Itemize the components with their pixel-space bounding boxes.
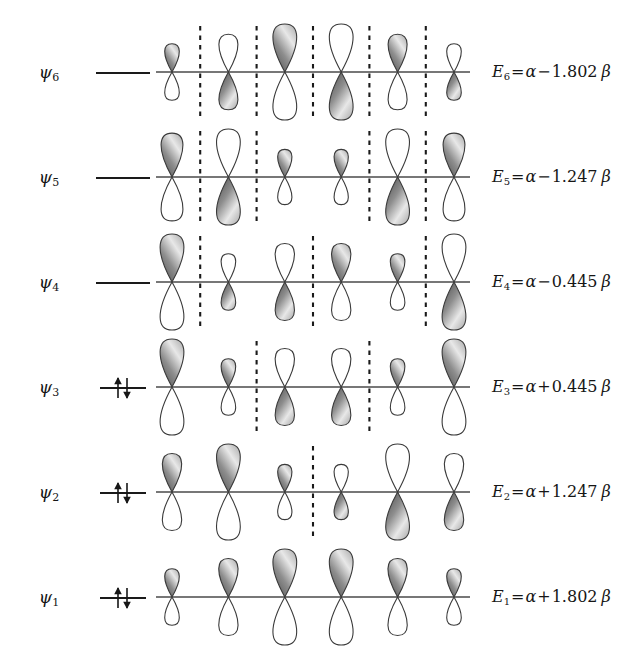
psi-symbol: ψ: [39, 61, 52, 81]
energy-symbol: E: [492, 587, 504, 606]
lobe-shaded: [332, 244, 351, 282]
electron-arrows: [92, 586, 154, 610]
lobe-unshaded: [217, 492, 241, 540]
lobe-unshaded: [329, 24, 353, 72]
energy-level-psi-1: [92, 586, 154, 610]
alpha-symbol: α: [525, 167, 536, 186]
mo-row-psi-3: ψ3E3=α+0.445β: [0, 335, 641, 440]
spin-up-arrow: [114, 587, 122, 608]
alpha-symbol: α: [525, 482, 536, 501]
energy-expression-psi-3: E3=α+0.445β: [492, 379, 641, 397]
beta-symbol: β: [598, 62, 611, 81]
lobe-unshaded: [334, 464, 348, 492]
lobe-shaded: [278, 464, 292, 492]
lobe-shaded: [329, 72, 353, 120]
lobe-unshaded: [386, 444, 410, 492]
electron-arrows: [92, 376, 154, 400]
lobe-shaded: [388, 559, 407, 597]
lobe-shaded: [273, 24, 297, 72]
lobe-unshaded: [332, 282, 351, 320]
lobe-unshaded: [386, 129, 410, 177]
lobe-shaded: [278, 149, 292, 177]
lobe-shaded: [219, 72, 238, 110]
psi-symbol: ψ: [39, 586, 52, 606]
orbital-lobes-psi-3: [150, 335, 480, 440]
energy-expression-psi-6: E6=α−1.802β: [492, 64, 641, 82]
mo-row-psi-2: ψ2E2=α+1.247β: [0, 440, 641, 545]
lobe-unshaded: [219, 597, 238, 635]
orbital-lobes-psi-6: [150, 20, 480, 125]
lobe-shaded: [334, 492, 348, 520]
lobe-shaded: [447, 569, 462, 597]
psi-subscript: 4: [52, 280, 59, 293]
lobe-shaded: [217, 444, 241, 492]
mo-row-psi-5: ψ5E5=α−1.247β: [0, 125, 641, 230]
lobe-unshaded: [160, 282, 184, 330]
lobe-unshaded: [161, 177, 183, 221]
level-line: [96, 282, 150, 284]
lobe-unshaded: [332, 349, 351, 387]
lobe-shaded: [390, 359, 405, 387]
lobe-shaded: [442, 339, 466, 387]
coefficient-value: 1.802: [552, 587, 598, 606]
sign-operator: +: [536, 377, 551, 396]
lobe-shaded: [275, 387, 294, 425]
lobe-unshaded: [221, 387, 236, 415]
level-line: [96, 177, 150, 179]
beta-symbol: β: [598, 377, 611, 396]
lobe-shaded: [443, 133, 465, 177]
lobe-shaded: [221, 282, 236, 310]
equals-sign: =: [510, 587, 525, 606]
lobe-shaded: [162, 454, 181, 492]
beta-symbol: β: [598, 167, 611, 186]
lobe-unshaded: [390, 387, 405, 415]
lobe-shaded: [332, 387, 351, 425]
energy-symbol: E: [492, 272, 504, 291]
lobe-unshaded: [388, 597, 407, 635]
energy-symbol: E: [492, 167, 504, 186]
coefficient-value: 0.445: [552, 272, 598, 291]
lobe-unshaded: [442, 234, 466, 282]
psi-subscript: 5: [52, 175, 59, 188]
sign-operator: +: [536, 587, 551, 606]
orbital-label-psi-5: ψ5: [18, 168, 80, 187]
lobe-unshaded: [444, 454, 463, 492]
equals-sign: =: [510, 62, 525, 81]
orbital-label-psi-3: ψ3: [18, 378, 80, 397]
lobe-unshaded: [165, 597, 180, 625]
orbital-label-psi-2: ψ2: [18, 483, 80, 502]
lobe-shaded: [329, 549, 353, 597]
sign-operator: +: [536, 482, 551, 501]
level-line: [96, 72, 150, 74]
lobe-shaded: [221, 359, 236, 387]
lobe-unshaded: [275, 349, 294, 387]
energy-level-psi-6: [92, 61, 154, 85]
lobe-shaded: [161, 133, 183, 177]
electron-arrows: [92, 481, 154, 505]
lobe-unshaded: [219, 34, 238, 72]
psi-subscript: 1: [52, 595, 59, 608]
spin-down-arrow: [123, 483, 131, 504]
psi-subscript: 6: [52, 70, 59, 83]
equals-sign: =: [510, 167, 525, 186]
lobe-shaded: [386, 177, 410, 225]
equals-sign: =: [510, 272, 525, 291]
lobe-shaded: [165, 569, 180, 597]
lobe-shaded: [388, 34, 407, 72]
energy-expression-psi-4: E4=α−0.445β: [492, 274, 641, 292]
lobe-shaded: [160, 339, 184, 387]
lobe-unshaded: [390, 282, 405, 310]
lobe-unshaded: [443, 177, 465, 221]
lobe-shaded: [444, 492, 463, 530]
lobe-shaded: [217, 177, 241, 225]
coefficient-value: 1.247: [552, 482, 598, 501]
orbital-label-psi-1: ψ1: [18, 588, 80, 607]
sign-operator: −: [536, 62, 551, 81]
lobe-unshaded: [162, 492, 181, 530]
spin-up-arrow: [114, 482, 122, 503]
energy-symbol: E: [492, 377, 504, 396]
lobe-unshaded: [447, 597, 462, 625]
spin-down-arrow: [123, 378, 131, 399]
lobe-unshaded: [442, 387, 466, 435]
orbital-lobes-psi-1: [150, 545, 480, 650]
